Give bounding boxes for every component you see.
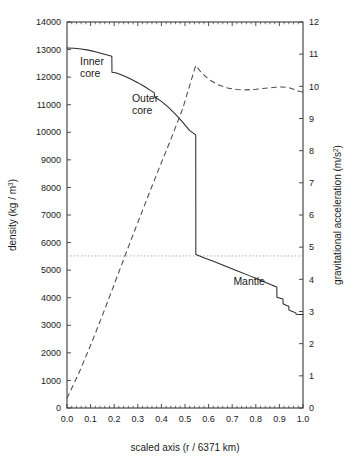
y-tick-label: 14000	[36, 17, 61, 27]
x-axis-title-text: scaled axis (r / 6371 km)	[131, 442, 240, 453]
x-tick-label: 0.1	[84, 414, 97, 424]
plot-frame	[67, 22, 303, 408]
y2-tick-label: 8	[309, 146, 314, 156]
region-label: Innercore	[80, 55, 104, 79]
y-tick-label: 1000	[41, 376, 61, 386]
y-axis-title: density (kg / m3)	[7, 179, 19, 251]
y-axis-ticks	[67, 22, 71, 408]
y2-tick-label: 7	[309, 178, 314, 188]
x-tick-label: 0.3	[132, 414, 145, 424]
y2-axis-tick-labels: 0123456789101112	[309, 17, 319, 413]
y-tick-label: 10000	[36, 127, 61, 137]
y2-tick-label: 0	[309, 403, 314, 413]
x-axis-title: scaled axis (r / 6371 km)	[131, 442, 240, 453]
x-tick-label: 0.6	[202, 414, 215, 424]
x-tick-label: 0.9	[273, 414, 286, 424]
y-tick-label: 6000	[41, 238, 61, 248]
y-axis-tick-labels: 0100020003000400050006000700080009000100…	[36, 17, 61, 413]
y2-tick-label: 3	[309, 307, 314, 317]
x-axis-tick-labels: 0.00.10.20.30.40.50.60.70.80.91.0	[61, 414, 310, 424]
y2-tick-label: 5	[309, 242, 314, 252]
y2-axis-title-text: gravitational acceleration (m/s2)	[332, 145, 344, 285]
y2-tick-label: 10	[309, 82, 319, 92]
x-tick-label: 0.7	[226, 414, 239, 424]
x-tick-label: 0.2	[108, 414, 121, 424]
y2-tick-label: 1	[309, 371, 314, 381]
y2-axis-ticks	[299, 22, 303, 408]
y2-tick-label: 4	[309, 275, 314, 285]
region-label: Outercore	[132, 92, 159, 116]
x-tick-label: 0.0	[61, 414, 74, 424]
x-tick-label: 0.8	[250, 414, 263, 424]
x-tick-label: 0.5	[179, 414, 192, 424]
gravity-series-line	[67, 65, 303, 398]
y-tick-label: 2000	[41, 348, 61, 358]
y-tick-label: 3000	[41, 320, 61, 330]
x-tick-label: 0.4	[155, 414, 168, 424]
y-tick-label: 7000	[41, 210, 61, 220]
y2-tick-label: 12	[309, 17, 319, 27]
y2-tick-label: 11	[309, 49, 318, 59]
y2-tick-label: 9	[309, 114, 314, 124]
chart-canvas: 0.00.10.20.30.40.50.60.70.80.91.0 010002…	[0, 0, 355, 467]
y-tick-label: 13000	[36, 45, 61, 55]
x-tick-label: 1.0	[297, 414, 310, 424]
y2-tick-label: 6	[309, 210, 314, 220]
x-axis-ticks	[67, 404, 303, 408]
y-tick-label: 5000	[41, 265, 61, 275]
y-tick-label: 9000	[41, 155, 61, 165]
y-tick-label: 11000	[37, 100, 61, 110]
top-axis-ticks	[72, 22, 299, 26]
y2-axis-title: gravitational acceleration (m/s2)	[332, 145, 344, 285]
density-gravity-chart: 0.00.10.20.30.40.50.60.70.80.91.0 010002…	[0, 0, 355, 467]
y-tick-label: 0	[56, 403, 61, 413]
region-label: Mantle	[233, 275, 265, 287]
y-axis-title-text: density (kg / m3)	[7, 179, 19, 251]
y-tick-label: 4000	[41, 293, 61, 303]
y-tick-label: 8000	[41, 183, 61, 193]
y2-tick-label: 2	[309, 339, 314, 349]
y-tick-label: 12000	[36, 72, 61, 82]
